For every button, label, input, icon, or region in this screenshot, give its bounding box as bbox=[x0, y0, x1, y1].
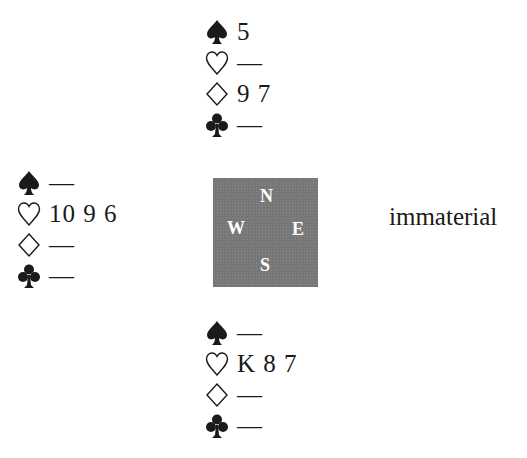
west-hand: — 10 9 6 — — bbox=[17, 167, 118, 291]
diamond-icon bbox=[17, 231, 41, 259]
south-club-cards: — bbox=[237, 412, 263, 440]
west-spades: — bbox=[17, 167, 118, 198]
club-icon bbox=[205, 111, 229, 139]
west-clubs: — bbox=[17, 260, 118, 291]
spade-icon bbox=[17, 169, 41, 197]
west-club-cards: — bbox=[49, 262, 75, 290]
south-spade-cards: — bbox=[237, 319, 263, 347]
club-icon bbox=[205, 412, 229, 440]
spade-icon bbox=[205, 319, 229, 347]
south-diamond-cards: — bbox=[237, 381, 263, 409]
heart-icon bbox=[205, 49, 229, 77]
south-hand: — K 8 7 — — bbox=[205, 317, 298, 441]
north-diamonds: 9 7 bbox=[205, 78, 271, 109]
north-clubs: — bbox=[205, 109, 271, 140]
heart-icon bbox=[205, 350, 229, 378]
south-heart-cards: K 8 7 bbox=[237, 350, 298, 378]
compass-table: N W E S bbox=[213, 178, 318, 287]
south-hearts: K 8 7 bbox=[205, 348, 298, 379]
compass-south-label: S bbox=[260, 255, 270, 276]
diamond-icon bbox=[205, 80, 229, 108]
spade-icon bbox=[205, 18, 229, 46]
north-club-cards: — bbox=[237, 111, 263, 139]
west-diamonds: — bbox=[17, 229, 118, 260]
north-hand: 5 — 9 7 — bbox=[205, 16, 271, 140]
west-diamond-cards: — bbox=[49, 231, 75, 259]
west-spade-cards: — bbox=[49, 169, 75, 197]
east-hand: immaterial bbox=[389, 203, 497, 231]
heart-icon bbox=[17, 200, 41, 228]
compass-east-label: E bbox=[292, 219, 304, 240]
north-spade-cards: 5 bbox=[237, 18, 251, 46]
club-icon bbox=[17, 262, 41, 290]
north-heart-cards: — bbox=[237, 49, 263, 77]
north-spades: 5 bbox=[205, 16, 271, 47]
south-diamonds: — bbox=[205, 379, 298, 410]
south-spades: — bbox=[205, 317, 298, 348]
west-hearts: 10 9 6 bbox=[17, 198, 118, 229]
north-hearts: — bbox=[205, 47, 271, 78]
west-heart-cards: 10 9 6 bbox=[49, 200, 118, 228]
north-diamond-cards: 9 7 bbox=[237, 80, 271, 108]
south-clubs: — bbox=[205, 410, 298, 441]
compass-west-label: W bbox=[227, 218, 245, 239]
diamond-icon bbox=[205, 381, 229, 409]
compass-north-label: N bbox=[260, 186, 273, 207]
